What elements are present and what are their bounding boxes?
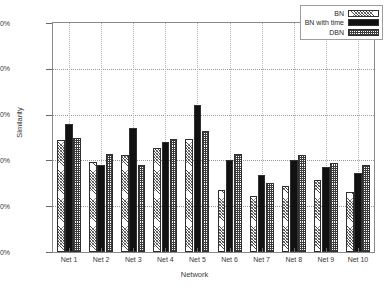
bar-bn-net-6 (218, 190, 226, 252)
y-axis-tick-label: 40% (0, 157, 10, 164)
bar-dbn-net-6 (234, 154, 242, 252)
x-axis-tick-mark (262, 248, 263, 253)
bar-dbn-net-10 (362, 165, 370, 252)
x-axis-label: Network (0, 270, 389, 279)
y-axis-tick-mark (46, 160, 52, 161)
x-axis-tick-label: Net 10 (338, 256, 378, 264)
y-axis-tick-label: 0% (0, 249, 10, 256)
plot-area (52, 22, 375, 253)
legend-item-dbn: DBN (305, 28, 379, 37)
y-axis-tick-mark (46, 69, 52, 70)
legend-swatch-bn (348, 10, 379, 17)
x-axis-tick-mark (69, 248, 70, 253)
bar-bn-net-4 (153, 148, 161, 252)
legend-label-dbn: DBN (329, 29, 344, 36)
x-axis-tick-mark (326, 248, 327, 253)
y-axis-tick-mark (46, 206, 52, 207)
y-axis-tick-label: 60% (0, 111, 10, 118)
y-axis-tick-label: 80% (0, 65, 10, 72)
bar-dbn-net-2 (106, 154, 114, 252)
bar-bn-net-1 (57, 140, 65, 252)
x-axis-tick-mark (133, 248, 134, 253)
bar-dbn-net-1 (73, 138, 81, 253)
bar-bn-with-time-net-9 (322, 167, 330, 252)
bar-bn-with-time-net-8 (290, 160, 298, 252)
x-axis-tick-mark (101, 248, 102, 253)
legend-item-bn: BN (305, 9, 379, 18)
bar-dbn-net-5 (202, 131, 210, 252)
chart-legend: BN BN with time DBN (300, 5, 383, 40)
y-axis-tick-label: 20% (0, 203, 10, 210)
y-axis-tick-mark (46, 252, 52, 253)
x-axis-tick-mark (230, 248, 231, 253)
bar-bn-net-3 (121, 155, 129, 252)
bar-bn-with-time-net-2 (97, 165, 105, 252)
legend-label-bn-with-time: BN with time (305, 19, 344, 26)
bar-bn-net-10 (346, 192, 354, 252)
x-axis-tick-mark (197, 248, 198, 253)
similarity-bar-chart: Similarity Network BN BN with time DBN 0… (0, 0, 389, 293)
bar-bn-with-time-net-6 (226, 160, 234, 252)
bar-bn-with-time-net-4 (162, 142, 170, 252)
bar-bn-with-time-net-1 (65, 124, 73, 252)
y-axis-tick-label: 100% (0, 20, 10, 27)
x-axis-tick-mark (294, 248, 295, 253)
x-axis-tick-mark (358, 248, 359, 253)
legend-swatch-dbn (348, 29, 379, 36)
legend-swatch-bn-with-time (348, 19, 379, 26)
bar-bn-net-2 (89, 162, 97, 252)
bar-bn-net-5 (185, 139, 193, 252)
bar-dbn-net-3 (138, 165, 146, 252)
bar-dbn-net-7 (266, 183, 274, 252)
bar-bn-net-8 (282, 186, 290, 252)
bar-bn-net-7 (250, 196, 258, 252)
bar-bn-with-time-net-3 (129, 128, 137, 252)
bar-dbn-net-8 (298, 155, 306, 252)
legend-item-bn-with-time: BN with time (305, 18, 379, 27)
bar-dbn-net-4 (170, 139, 178, 252)
bar-bn-net-9 (314, 180, 322, 252)
bar-dbn-net-9 (330, 163, 338, 252)
bar-bn-with-time-net-5 (194, 105, 202, 252)
bar-bn-with-time-net-7 (258, 175, 266, 252)
y-axis-tick-mark (46, 23, 52, 24)
y-axis-label: Similarity (15, 78, 24, 168)
legend-label-bn: BN (334, 10, 344, 17)
y-axis-tick-mark (46, 115, 52, 116)
x-axis-tick-mark (165, 248, 166, 253)
bar-bn-with-time-net-10 (354, 173, 362, 252)
